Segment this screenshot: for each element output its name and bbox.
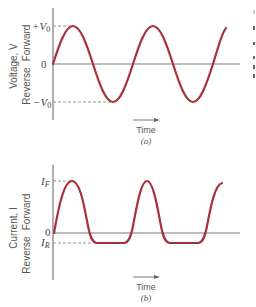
panel-a-caption: (a) xyxy=(141,136,152,146)
panel-b-y-label: Current, I xyxy=(8,207,19,249)
panel-b-rectified-curve xyxy=(54,181,222,243)
panel-a-pos-tick: +V0 xyxy=(32,20,50,34)
panel-b-reverse-label: Reverse xyxy=(21,236,32,274)
panel-a-forward-label: Forward xyxy=(21,25,32,62)
panel-a-neg-tick: −V0 xyxy=(33,96,51,110)
panel-b-zero-tick: 0 xyxy=(45,226,51,238)
diode-waveform-figure: +V0 0 −V0 Voltage, V Forward Reverse Tim… xyxy=(0,0,256,307)
panel-b-caption: (b) xyxy=(141,293,152,303)
panel-b-time-label: Time xyxy=(136,282,156,292)
panel-a-voltage: +V0 0 −V0 Voltage, V Forward Reverse Tim… xyxy=(8,8,240,146)
panel-b-reverse-tick: IR xyxy=(40,236,50,250)
panel-b-current: IF 0 IR Current, I Forward Reverse Time … xyxy=(8,165,240,303)
panel-a-zero-tick: 0 xyxy=(41,58,47,70)
panel-a-y-label: Voltage, V xyxy=(8,43,19,89)
panel-a-arrowhead-icon xyxy=(154,118,160,122)
panel-a-reverse-label: Reverse xyxy=(21,67,32,105)
panel-b-forward-label: Forward xyxy=(21,194,32,231)
clipped-text-fragments xyxy=(253,10,255,78)
panel-a-time-label: Time xyxy=(136,125,156,135)
panel-b-forward-tick: IF xyxy=(40,175,50,189)
panel-b-arrowhead-icon xyxy=(154,275,160,279)
